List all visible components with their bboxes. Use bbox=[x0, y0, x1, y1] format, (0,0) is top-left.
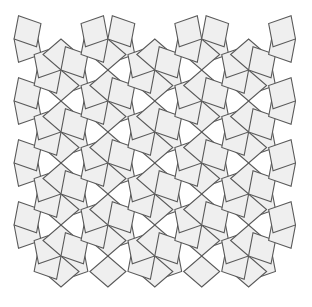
tiling-figure bbox=[0, 0, 312, 307]
rhombus-tiles-group bbox=[14, 16, 295, 287]
tiling-canvas bbox=[0, 0, 312, 307]
